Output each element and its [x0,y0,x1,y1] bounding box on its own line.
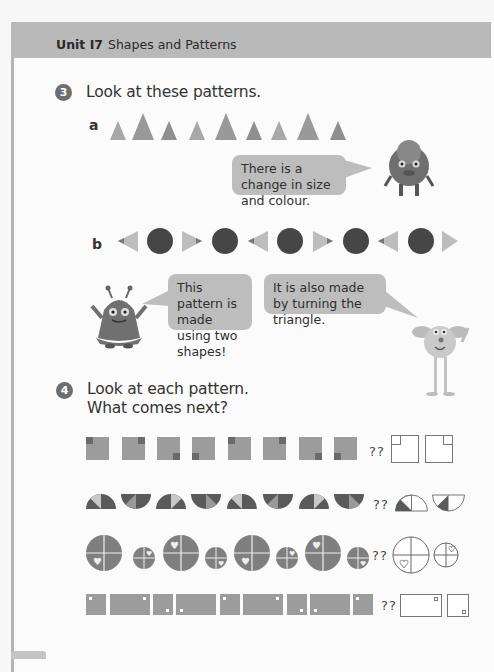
bubble-pointer-a [344,160,374,180]
bubble-pointer-b-right [384,290,420,320]
question-3-prompt: Look at these patterns. [86,83,261,102]
pattern-row-squares [86,435,376,461]
question-marks-row-1: ?? [369,444,385,459]
speech-bubble-b-right: It is also made by turning the triangle. [264,274,386,314]
svg-text:♥: ♥ [399,558,409,571]
svg-text:♥: ♥ [312,540,321,551]
speech-bubble-a: There is a change in size and colour. [232,155,346,195]
question-4-prompt-line1: Look at each pattern. [87,380,249,399]
speech-bubble-b-left: This pattern is made using two shapes! [168,274,252,330]
question-4-number: 4 [56,382,73,399]
svg-text:♥: ♥ [218,560,224,568]
pattern-row-semicircles [86,493,376,519]
question-marks-row-4: ?? [381,598,397,613]
question-3-number: 3 [55,84,72,101]
answer-options-row-1[interactable] [391,434,461,464]
page-title: Unit I7Shapes and Patterns [56,37,237,52]
unit-label: Unit I7 [56,37,103,52]
svg-text:♥: ♥ [93,556,102,567]
answer-options-row-4[interactable] [400,594,470,618]
svg-text:♥: ♥ [170,540,179,551]
question-marks-row-2: ?? [373,497,389,512]
pattern-row-rectangles [86,593,386,617]
part-a-label: a [89,117,98,133]
svg-text:♥: ♥ [146,550,152,558]
page-footer-tab [11,651,46,659]
svg-text:♥: ♥ [360,560,366,568]
answer-options-row-2[interactable] [395,494,465,520]
answer-options-row-3[interactable]: ♥ ♥ [393,533,463,577]
unit-title: Shapes and Patterns [108,37,237,52]
question-marks-row-3: ?? [372,548,388,563]
horned-monster-character [88,288,150,350]
svg-text:♥: ♥ [448,545,455,554]
svg-text:♥: ♥ [241,556,250,567]
triangle-pattern [110,110,370,146]
fuzzy-monster-character [385,140,435,204]
part-b-label: b [92,236,102,252]
pattern-row-circles: ♥ ♥ ♥ ♥ ♥ ♥ ♥ ♥ [86,533,376,575]
triangle-circle-pattern [118,228,458,256]
question-4-prompt-line2: What comes next? [87,399,228,418]
svg-text:♥: ♥ [289,550,295,558]
round-character [410,320,470,400]
